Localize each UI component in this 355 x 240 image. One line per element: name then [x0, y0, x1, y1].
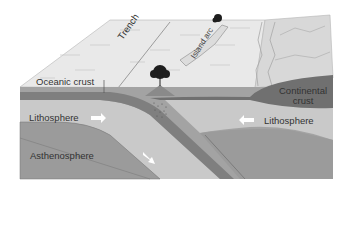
continental-crust-label: Continental crust [279, 86, 327, 105]
lithosphere-right-label: Lithosphere [264, 116, 314, 126]
oceanic-crust-label: Oceanic crust [36, 77, 94, 87]
asthenosphere-label: Asthenosphere [30, 151, 94, 161]
lithosphere-left-label: Lithosphere [29, 113, 79, 123]
continental-crust-label-line2: crust [279, 96, 327, 106]
